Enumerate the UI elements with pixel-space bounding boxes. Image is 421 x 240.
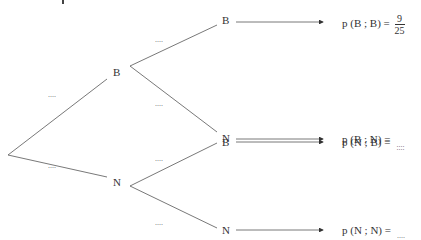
numerator: 9 (395, 13, 405, 25)
result-n-n: p (N ; N) =.... (342, 224, 405, 240)
leaf-n-b: B (222, 136, 229, 148)
denominator: 25 (395, 25, 405, 36)
prob-b-n: .... (155, 99, 163, 108)
prob-root-b: .... (48, 90, 56, 99)
leaf-b-b: B (222, 14, 229, 26)
result-expr: p (N ; B) = (342, 136, 390, 148)
result-b-b: p (B ; B) = 9 25 (342, 13, 405, 36)
result-expr: p (B ; B) = (342, 17, 390, 29)
leaf-n-n: N (222, 224, 230, 236)
prob-b-b: .... (155, 35, 163, 44)
result-value: .... (397, 231, 405, 240)
prob-n-b: .... (155, 154, 163, 163)
node-b: B (113, 66, 120, 78)
result-value: .... (396, 143, 404, 152)
fraction: 9 25 (395, 13, 405, 36)
prob-n-n: .... (155, 218, 163, 227)
prob-root-n: .... (48, 161, 56, 170)
result-expr: p (N ; N) = (342, 224, 391, 236)
tree-lines (0, 0, 421, 240)
node-n: N (113, 176, 121, 188)
result-n-b: p (N ; B) =.... (342, 136, 404, 152)
